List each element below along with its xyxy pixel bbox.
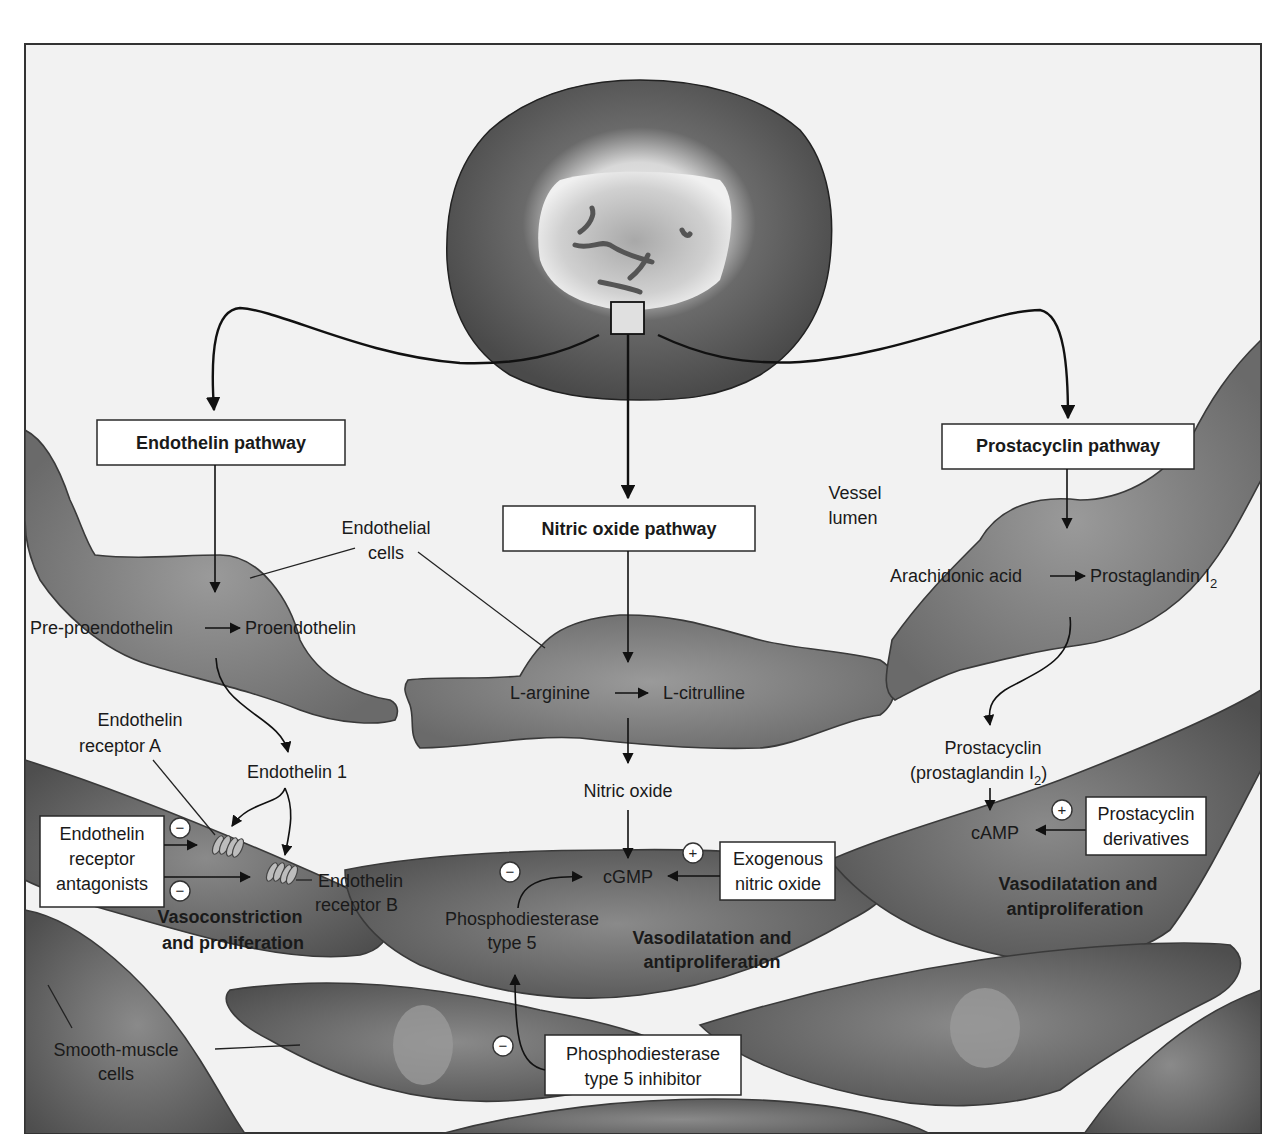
prostacyclin-derivatives-box: Prostacyclin derivatives [1086, 797, 1206, 855]
vasodilatation-right-label-1: Vasodilatation and [998, 874, 1157, 894]
prostacyclin-pathway-box: Prostacyclin pathway [942, 424, 1194, 469]
vasoconstriction-label-2: and proliferation [162, 933, 304, 953]
camp-label: cAMP [971, 823, 1019, 843]
nitric-oxide-pathway-label: Nitric oxide pathway [541, 519, 716, 539]
minus-sign-icon: − [170, 881, 190, 901]
vasodilatation-center-label-1: Vasodilatation and [632, 928, 791, 948]
minus-sign-icon: − [170, 818, 190, 838]
era-line-1: Endothelin [59, 824, 144, 844]
proendothelin-label: Proendothelin [245, 618, 356, 638]
plus-sign-icon: + [1052, 800, 1072, 820]
era-line-3: antagonists [56, 874, 148, 894]
arachidonic-acid-label: Arachidonic acid [890, 566, 1022, 586]
nitric-oxide-pathway-box: Nitric oxide pathway [503, 506, 755, 551]
vessel-lumen-label-2: lumen [828, 508, 877, 528]
magnification-box [611, 302, 644, 334]
prostacyclin-pathway-label: Prostacyclin pathway [976, 436, 1160, 456]
endothelial-cells-label-1: Endothelial [341, 518, 430, 538]
endothelin-pathway-label: Endothelin pathway [136, 433, 306, 453]
svg-text:−: − [176, 882, 185, 899]
vasodilatation-center-label-2: antiproliferation [643, 952, 780, 972]
svg-text:+: + [1058, 801, 1067, 818]
cgmp-label: cGMP [603, 867, 653, 887]
pde5-inhibitor-box: Phosphodiesterase type 5 inhibitor [545, 1035, 741, 1095]
pde5i-line-1: Phosphodiesterase [566, 1044, 720, 1064]
l-citrulline-label: L-citrulline [663, 683, 745, 703]
pcd-line-1: Prostacyclin [1097, 804, 1194, 824]
svg-text:−: − [506, 863, 515, 880]
exo-no-line-2: nitric oxide [735, 874, 821, 894]
l-arginine-label: L-arginine [510, 683, 590, 703]
endothelin-receptor-b-label-1: Endothelin [318, 871, 403, 891]
exo-no-line-1: Exogenous [733, 849, 823, 869]
era-line-2: receptor [69, 849, 135, 869]
endothelin-receptor-a-label-1: Endothelin [97, 710, 182, 730]
smooth-muscle-cells-label-2: cells [98, 1064, 134, 1084]
pde5i-line-2: type 5 inhibitor [584, 1069, 701, 1089]
minus-sign-icon: − [493, 1036, 513, 1056]
endothelin-receptor-a-label-2: receptor A [79, 736, 161, 756]
pre-proendothelin-label: Pre-proendothelin [30, 618, 173, 638]
svg-text:−: − [499, 1037, 508, 1054]
smooth-muscle-nucleus [950, 988, 1020, 1068]
vasoconstriction-label-1: Vasoconstriction [157, 907, 302, 927]
vasodilatation-right-label-2: antiproliferation [1006, 899, 1143, 919]
pde5-label-2: type 5 [487, 933, 536, 953]
nitric-oxide-label: Nitric oxide [583, 781, 672, 801]
vessel-lumen-label-1: Vessel [828, 483, 881, 503]
plus-sign-icon: + [683, 843, 703, 863]
endothelial-cell-body [447, 80, 832, 400]
svg-text:−: − [176, 819, 185, 836]
smooth-muscle-nucleus [393, 1005, 453, 1085]
smooth-muscle-cells-label-1: Smooth-muscle [53, 1040, 178, 1060]
endothelin-1-label: Endothelin 1 [247, 762, 347, 782]
endothelin-receptor-b-label-2: receptor B [315, 895, 398, 915]
prostacyclin-label-1: Prostacyclin [944, 738, 1041, 758]
exogenous-nitric-oxide-box: Exogenous nitric oxide [720, 842, 835, 900]
svg-text:+: + [689, 844, 698, 861]
minus-sign-icon: − [500, 862, 520, 882]
endothelial-cells-label-2: cells [368, 543, 404, 563]
pde5-label-1: Phosphodiesterase [445, 909, 599, 929]
pulmonary-hypertension-pathways-diagram: Endothelin pathway Nitric oxide pathway … [0, 0, 1277, 1147]
endothelin-receptor-antagonists-box: Endothelin receptor antagonists [40, 816, 164, 907]
pcd-line-2: derivatives [1103, 829, 1189, 849]
endothelin-pathway-box: Endothelin pathway [97, 420, 345, 465]
